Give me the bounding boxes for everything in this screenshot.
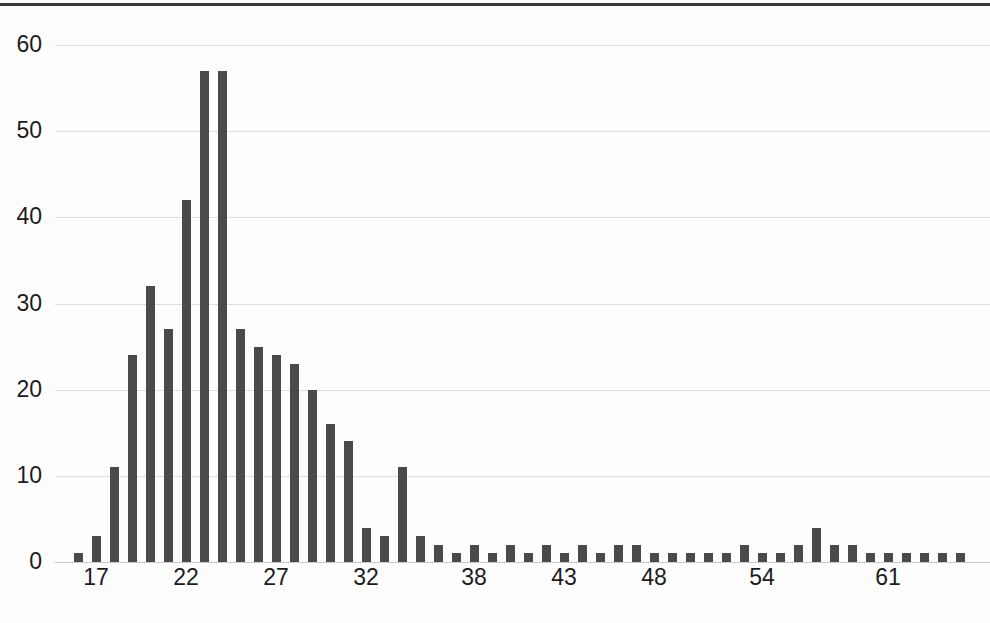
bar: [272, 355, 281, 562]
bar: [398, 467, 407, 562]
bar: [254, 347, 263, 562]
bar: [542, 545, 551, 562]
bar: [812, 528, 821, 562]
bar: [866, 553, 875, 562]
bar: [290, 364, 299, 562]
bar: [848, 545, 857, 562]
bar: [758, 553, 767, 562]
y-tick-label: 30: [0, 292, 42, 315]
bar: [308, 390, 317, 562]
bar: [380, 536, 389, 562]
bar: [578, 545, 587, 562]
bar: [794, 545, 803, 562]
x-axis-line: [55, 562, 990, 563]
bar: [470, 545, 479, 562]
gridline-30: [55, 304, 990, 305]
bar: [74, 553, 83, 562]
bar: [704, 553, 713, 562]
bar: [164, 329, 173, 562]
gridline-60: [55, 45, 990, 46]
bar: [632, 545, 641, 562]
bar: [884, 553, 893, 562]
gridline-40: [55, 217, 990, 218]
x-tick-label: 32: [336, 566, 396, 589]
y-tick-label: 40: [0, 205, 42, 228]
bar: [344, 441, 353, 562]
gridline-50: [55, 131, 990, 132]
y-tick-label: 0: [0, 550, 42, 573]
bar: [830, 545, 839, 562]
bar: [524, 553, 533, 562]
bar: [668, 553, 677, 562]
bar: [416, 536, 425, 562]
bar: [776, 553, 785, 562]
histogram-chart: 0102030405060 172227323843485461: [0, 0, 990, 623]
bar: [488, 553, 497, 562]
bar: [686, 553, 695, 562]
bar: [614, 545, 623, 562]
x-tick-label: 61: [858, 566, 918, 589]
y-tick-label: 20: [0, 378, 42, 401]
x-tick-label: 43: [534, 566, 594, 589]
bar: [182, 200, 191, 562]
bar: [902, 553, 911, 562]
x-tick-label: 48: [624, 566, 684, 589]
bar: [128, 355, 137, 562]
bar: [362, 528, 371, 562]
bar: [596, 553, 605, 562]
bar: [200, 71, 209, 562]
x-tick-label: 27: [246, 566, 306, 589]
bar: [938, 553, 947, 562]
y-tick-label: 50: [0, 119, 42, 142]
bar: [452, 553, 461, 562]
bar: [434, 545, 443, 562]
x-tick-label: 22: [156, 566, 216, 589]
bar: [722, 553, 731, 562]
bar: [920, 553, 929, 562]
bar: [650, 553, 659, 562]
plot-area: 0102030405060 172227323843485461: [0, 0, 990, 623]
bar: [326, 424, 335, 562]
x-tick-label: 17: [66, 566, 126, 589]
bar: [92, 536, 101, 562]
bar: [218, 71, 227, 562]
bar: [236, 329, 245, 562]
x-tick-label: 38: [444, 566, 504, 589]
bar: [560, 553, 569, 562]
gridline-10: [55, 476, 990, 477]
bar: [740, 545, 749, 562]
gridline-20: [55, 390, 990, 391]
bar: [110, 467, 119, 562]
bar: [146, 286, 155, 562]
x-tick-label: 54: [732, 566, 792, 589]
y-tick-label: 60: [0, 33, 42, 56]
y-tick-label: 10: [0, 464, 42, 487]
bar: [956, 553, 965, 562]
bar: [506, 545, 515, 562]
